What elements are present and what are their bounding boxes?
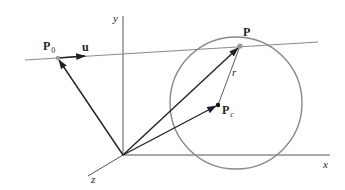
P0-label-main: P bbox=[43, 39, 50, 53]
vector-origin-to-Pc bbox=[123, 106, 216, 155]
vector-origin-to-P0 bbox=[59, 60, 123, 155]
point-Pc bbox=[216, 103, 220, 107]
y-axis-label: y bbox=[113, 13, 118, 24]
point-P bbox=[237, 43, 242, 48]
z-axis-label: z bbox=[91, 174, 95, 185]
point-P0 bbox=[56, 56, 60, 60]
u-label: u bbox=[82, 41, 89, 53]
radius-line bbox=[218, 46, 240, 105]
x-axis-label: x bbox=[323, 159, 328, 170]
Pc-label-sub: c bbox=[230, 110, 234, 119]
P0-label: P0 bbox=[43, 40, 55, 52]
Pc-label: Pc bbox=[222, 104, 234, 116]
r-label: r bbox=[232, 67, 236, 78]
P-label: P bbox=[243, 26, 250, 38]
P0-label-sub: 0 bbox=[51, 46, 55, 55]
direction-vector-u bbox=[58, 56, 85, 58]
Pc-label-main: P bbox=[222, 103, 229, 117]
ray-sphere-diagram bbox=[0, 0, 345, 190]
